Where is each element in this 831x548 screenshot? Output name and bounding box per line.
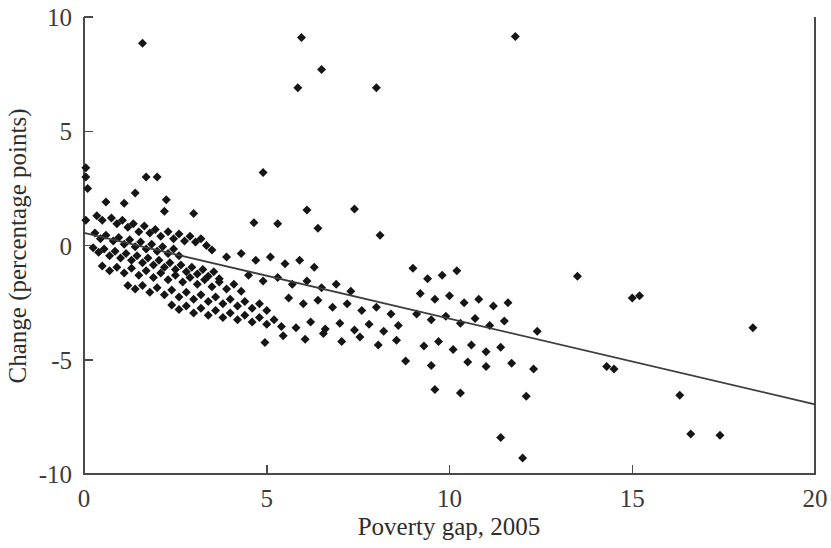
data-point: [266, 252, 275, 261]
data-point: [463, 358, 472, 367]
plot-frame: [84, 17, 815, 474]
data-point: [379, 327, 388, 336]
y-tick-label: 0: [60, 233, 73, 260]
data-point: [153, 283, 162, 292]
data-point: [237, 287, 246, 296]
data-point: [423, 274, 432, 283]
data-point: [164, 227, 173, 236]
data-point: [299, 299, 308, 308]
data-point: [164, 275, 173, 284]
data-point: [332, 280, 341, 289]
data-point: [387, 310, 396, 319]
data-point: [297, 33, 306, 42]
data-point: [120, 268, 129, 277]
y-axis-title: Change (percentage points): [4, 109, 32, 384]
data-point: [196, 304, 205, 313]
data-point: [262, 320, 271, 329]
data-point: [317, 65, 326, 74]
data-point: [120, 199, 129, 208]
data-point: [291, 323, 300, 332]
data-point: [218, 299, 227, 308]
data-point: [162, 195, 171, 204]
data-point: [573, 272, 582, 281]
data-point: [204, 311, 213, 320]
data-point: [167, 300, 176, 309]
data-point: [277, 322, 286, 331]
data-point: [167, 286, 176, 295]
y-tick-label: -5: [51, 347, 72, 374]
data-point: [343, 299, 352, 308]
data-point: [416, 289, 425, 298]
data-point: [715, 431, 724, 440]
data-point: [218, 313, 227, 322]
data-point: [134, 271, 143, 280]
data-point: [337, 337, 346, 346]
data-point: [101, 198, 110, 207]
data-point: [222, 284, 231, 293]
data-point: [460, 298, 469, 307]
data-point: [131, 188, 140, 197]
data-point: [408, 264, 417, 273]
data-point: [394, 321, 403, 330]
data-point: [533, 327, 542, 336]
data-point: [240, 297, 249, 306]
data-point: [335, 319, 344, 328]
data-point: [310, 263, 319, 272]
data-point: [248, 304, 257, 313]
data-point: [306, 318, 315, 327]
data-point: [295, 256, 304, 265]
data-point: [301, 335, 310, 344]
data-point: [467, 340, 476, 349]
x-tick-label: 0: [78, 485, 91, 512]
data-point: [374, 340, 383, 349]
data-point: [138, 39, 147, 48]
data-point: [127, 264, 136, 273]
data-point: [419, 342, 428, 351]
data-point: [376, 231, 385, 240]
data-point: [522, 392, 531, 401]
data-point: [193, 280, 202, 289]
data-point: [153, 172, 162, 181]
data-point: [496, 343, 505, 352]
data-point: [686, 430, 695, 439]
data-point: [273, 219, 282, 228]
data-point: [496, 433, 505, 442]
data-point: [262, 306, 271, 315]
data-point: [675, 391, 684, 400]
chart-canvas: 05101520 -10-50510 Poverty gap, 2005 Cha…: [0, 0, 831, 548]
data-point: [248, 318, 257, 327]
data-point: [175, 292, 184, 301]
data-point: [500, 316, 509, 325]
data-point: [313, 296, 322, 305]
data-point: [445, 291, 454, 300]
data-point: [503, 298, 512, 307]
data-point: [222, 252, 231, 261]
data-point: [226, 308, 235, 317]
x-axis-ticks: [84, 465, 815, 474]
data-point: [182, 288, 191, 297]
data-point: [482, 347, 491, 356]
data-point: [160, 290, 169, 299]
data-point: [372, 303, 381, 312]
data-point: [160, 207, 169, 216]
data-point: [171, 271, 180, 280]
data-point: [602, 362, 611, 371]
data-point: [357, 306, 366, 315]
data-point: [474, 295, 483, 304]
data-point: [270, 315, 279, 324]
data-point: [233, 302, 242, 311]
data-point: [211, 292, 220, 301]
data-point: [233, 315, 242, 324]
data-point: [511, 32, 520, 41]
data-point: [260, 338, 269, 347]
y-tick-label: 10: [47, 4, 72, 31]
x-axis-tick-labels: 05101520: [78, 485, 828, 512]
data-point: [302, 206, 311, 215]
data-point: [284, 294, 293, 303]
data-point: [434, 337, 443, 346]
data-point: [452, 266, 461, 275]
data-point: [328, 303, 337, 312]
data-point: [518, 454, 527, 463]
data-point: [438, 271, 447, 280]
data-point: [507, 359, 516, 368]
